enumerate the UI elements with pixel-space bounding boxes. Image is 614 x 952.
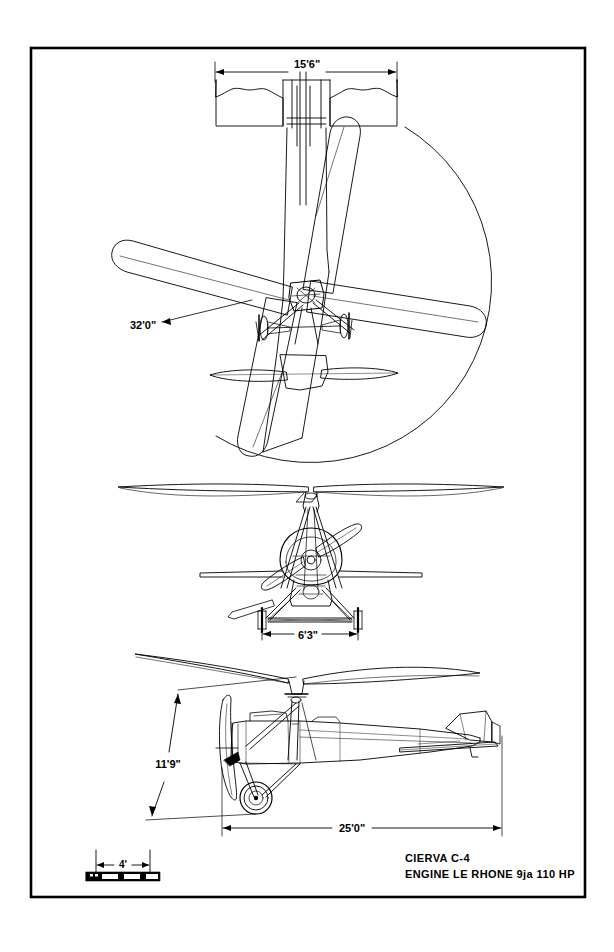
scale-bar-label: 4'	[119, 859, 127, 870]
title-block-designation: CIERVA C-4	[405, 852, 470, 864]
dimension-label-wing-span: 15'6"	[294, 58, 320, 70]
dimension-label-length: 25'0"	[339, 822, 365, 834]
sheet-background	[0, 0, 614, 952]
title-block-engine: ENGINE LE RHONE 9ja 110 HP	[405, 868, 575, 880]
dimension-label-track: 6'3"	[298, 629, 318, 641]
dimension-label-rotor-diameter: 32'0"	[130, 319, 156, 331]
three-view-drawing: 15'6" 32'0" 6'3" 11'9" 25'0" 4' CIERVA C…	[0, 0, 614, 952]
drawing-sheet: 15'6" 32'0" 6'3" 11'9" 25'0" 4' CIERVA C…	[0, 0, 614, 952]
dimension-label-height: 11'9"	[155, 758, 181, 770]
